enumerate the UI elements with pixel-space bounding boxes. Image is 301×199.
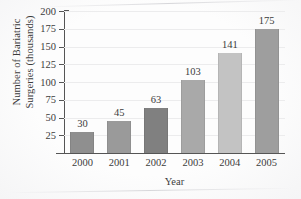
- gridline: [64, 11, 285, 12]
- y-axis-tick-label: 125: [26, 59, 56, 70]
- x-axis-tick-label-2003: 2003: [173, 157, 213, 168]
- scan-artifact-bottom: [8, 188, 293, 193]
- bar-chart-figure: Number of Bariatric Surgeries (thousands…: [0, 0, 301, 199]
- y-axis-tick: [59, 47, 64, 48]
- bar-2002: [144, 108, 168, 153]
- bar-2000: [70, 132, 94, 153]
- y-axis-tick: [59, 29, 64, 30]
- bar-value-label-2001: 45: [99, 107, 139, 118]
- y-axis-tick: [59, 82, 64, 83]
- bar-2005: [255, 29, 279, 153]
- gridline: [64, 47, 285, 48]
- x-axis-tick-label-2000: 2000: [62, 157, 102, 168]
- y-axis-tick-label: 100: [26, 77, 56, 88]
- bar-2003: [181, 80, 205, 153]
- bar-value-label-2003: 103: [173, 66, 213, 77]
- y-axis-tick: [59, 135, 64, 136]
- y-axis-tick-label: 75: [26, 94, 56, 105]
- y-axis-tick-label: 200: [26, 6, 56, 17]
- bar-value-label-2004: 141: [210, 39, 250, 50]
- bar-2001: [107, 121, 131, 153]
- x-axis-title: Year: [64, 176, 285, 187]
- bar-value-label-2002: 63: [136, 94, 176, 105]
- bar-value-label-2000: 30: [62, 118, 102, 129]
- x-axis-tick-label-2004: 2004: [210, 157, 250, 168]
- bar-2004: [218, 53, 242, 153]
- y-axis-tick-label: 25: [26, 130, 56, 141]
- bar-value-label-2005: 175: [247, 15, 287, 26]
- gridline: [64, 135, 285, 136]
- y-axis-tick: [59, 100, 64, 101]
- x-axis-tick-label-2005: 2005: [247, 157, 287, 168]
- y-axis-tick-label: 150: [26, 41, 56, 52]
- scan-artifact-top: [40, 0, 298, 8]
- plot-area: 304563103141175: [64, 11, 285, 153]
- y-axis-tick: [59, 11, 64, 12]
- gridline: [64, 82, 285, 83]
- y-axis-tick: [59, 64, 64, 65]
- gridline: [64, 29, 285, 30]
- y-axis-title-line-1: Number of Bariatric: [10, 0, 23, 136]
- x-axis-tick-label-2002: 2002: [136, 157, 176, 168]
- x-axis-line: [56, 153, 285, 154]
- y-axis-tick-label: 175: [26, 23, 56, 34]
- y-axis-tick-label: 50: [26, 112, 56, 123]
- x-axis-tick-label-2001: 2001: [99, 157, 139, 168]
